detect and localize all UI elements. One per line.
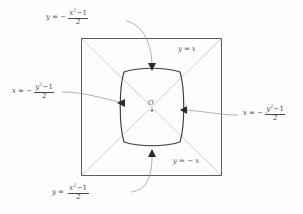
diagonal-label-1-lhs: y (178, 45, 182, 53)
curve-label-top: y = − x2−1 2 (46, 10, 88, 26)
curve-label-left-fraction: y2−1 2 (34, 84, 54, 100)
curve-label-bottom-numerator: x2−1 (68, 185, 88, 193)
curve-label-left-denominator: 2 (41, 92, 47, 100)
curve-label-top-fraction: x2−1 2 (68, 10, 88, 26)
curve-label-right-sign: − (257, 110, 264, 117)
arrowhead-bottom (148, 149, 156, 157)
diagonal-label-y-equals-minus-x: y = − x (173, 157, 199, 165)
curve-label-bottom-fraction: x2−1 2 (68, 185, 88, 201)
curve-label-left-sign: − (26, 88, 33, 95)
leader-line-right (182, 110, 238, 115)
origin-label: O (148, 99, 154, 107)
curve-label-right-numerator: y2−1 (265, 106, 285, 114)
leader-line-bottom (131, 156, 152, 192)
curve-label-top-numerator: x2−1 (68, 10, 88, 18)
diagonal-label-2-minus: − (187, 157, 194, 165)
diagonal-label-1-rhs: x (192, 45, 196, 53)
curve-label-right-denominator: 2 (272, 114, 278, 122)
curve-label-right-eq: = (248, 110, 255, 117)
curve-label-top-sign: − (60, 14, 67, 21)
curve-label-top-denominator: 2 (75, 18, 81, 26)
curve-label-left-eq: = (17, 88, 24, 95)
curve-label-right-fraction: y2−1 2 (265, 106, 285, 122)
math-figure: O y = − x2−1 2 x = − y2−1 2 (0, 0, 303, 214)
curve-label-left-lhs: x (12, 88, 16, 95)
curve-label-right: x = − y2−1 2 (243, 106, 285, 122)
arrowhead-top (148, 63, 156, 71)
diagonal-label-1-eq: = (183, 45, 190, 53)
curve-label-bottom-eq: = (57, 189, 64, 196)
curve-label-bottom-lhs: y (52, 189, 56, 196)
diagonal-label-2-eq: = (178, 157, 185, 165)
curve-label-bottom: y = x2−1 2 (52, 185, 89, 201)
curve-label-left-numerator: y2−1 (34, 84, 54, 92)
diagonal-label-y-equals-x: y = x (178, 45, 196, 53)
diagonal-label-2-lhs: y (173, 157, 177, 165)
origin-dot (151, 109, 153, 111)
curve-label-right-lhs: x (243, 110, 247, 117)
curve-label-bottom-denominator: 2 (75, 193, 81, 201)
curve-label-top-lhs: y (46, 14, 50, 21)
leader-line-top (126, 21, 152, 64)
curve-label-top-eq: = (51, 14, 58, 21)
diagonal-label-2-rhs: x (195, 157, 199, 165)
curve-label-left: x = − y2−1 2 (12, 84, 54, 100)
leader-line-left (62, 92, 124, 103)
arrowhead-left (117, 99, 125, 107)
